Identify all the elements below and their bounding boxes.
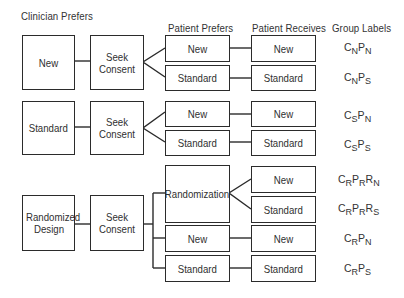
patient-receives-label: New [274,108,293,120]
patient-receives-standard-box-3: Standard [251,255,316,282]
patient-receives-label: New [274,174,293,186]
clinician-standard-box: Standard [22,101,75,155]
patient-prefers-new-box-2: New [165,101,230,127]
patient-receives-rand-new-box: New [251,166,316,193]
header-clinician-prefers: Clinician Prefers [21,10,93,22]
group-label-cs-pn: CSPN [344,109,371,124]
clinician-new-label: New [39,57,58,69]
seek-consent-box-2: Seek Consent [90,101,144,155]
patient-receives-label: Standard [264,72,303,84]
group-label-cn-pn: CNPN [344,41,372,56]
seek-consent-box-1: Seek Consent [90,35,144,90]
seek-consent-label-3: Seek Consent [99,211,136,235]
group-label-cs-ps: CSPS [344,138,371,153]
clinician-new-box: New [22,35,75,90]
patient-prefers-standard-box-3: Standard [165,255,230,282]
patient-prefers-standard-box-1: Standard [165,65,230,91]
seek-consent-label-1: Seek Consent [99,51,136,75]
patient-receives-new-box-2: New [251,101,316,127]
patient-receives-label: Standard [264,137,303,149]
clinician-randomized-label: Randomized Design [26,211,72,235]
group-label-cn-ps: CNPS [344,71,371,86]
patient-receives-label: New [274,43,293,55]
patient-prefers-standard-box-2: Standard [165,130,230,156]
group-label-cr-ps: CRPS [344,262,371,277]
patient-prefers-label: Standard [178,263,217,275]
patient-receives-standard-box-2: Standard [251,130,316,156]
patient-receives-standard-box-1: Standard [251,65,316,91]
patient-prefers-label: Standard [178,72,217,84]
patient-prefers-new-box-1: New [165,35,230,62]
patient-receives-new-box-1: New [251,35,316,62]
patient-receives-rand-standard-box: Standard [251,196,316,223]
consent-design-diagram: Clinician Prefers Patient Prefers Patien… [0,0,404,298]
patient-prefers-label: New [188,233,207,245]
patient-receives-new-box-3: New [251,225,316,252]
clinician-randomized-box: Randomized Design [22,195,75,251]
header-group-labels: Group Labels [332,22,391,34]
header-patient-receives: Patient Receives [252,22,326,34]
seek-consent-box-3: Seek Consent [90,195,144,251]
group-label-cr-pr-rn: CRPRRN [338,173,380,188]
patient-prefers-label: New [188,43,207,55]
patient-receives-label: New [274,233,293,245]
patient-prefers-new-box-3: New [165,225,230,252]
randomization-box: Randomization [165,165,230,223]
patient-prefers-label: Standard [178,137,217,149]
group-label-cr-pr-rs: CRPRRS [338,202,379,217]
patient-receives-label: Standard [264,204,303,216]
header-patient-prefers: Patient Prefers [168,22,233,34]
clinician-standard-label: Standard [29,122,68,134]
randomization-label: Randomization [165,188,229,200]
seek-consent-label-2: Seek Consent [99,116,136,140]
patient-prefers-label: New [188,108,207,120]
patient-receives-label: Standard [264,263,303,275]
group-label-cr-pn: CRPN [344,232,372,247]
